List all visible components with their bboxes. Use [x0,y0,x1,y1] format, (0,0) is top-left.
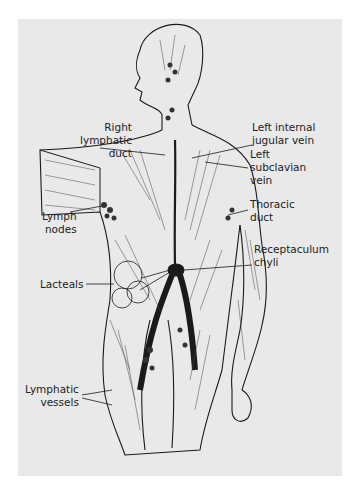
label-thoracic-duct: Thoracic duct [250,198,295,224]
label-lymph-nodes: Lymph nodes [42,210,77,236]
thoracic-duct [175,140,176,265]
lymph-node-clusters [101,63,235,371]
receptaculum-chyli [168,264,184,276]
left-arm-outline [232,225,244,390]
leg-outline [142,320,174,450]
label-leader-lines [70,145,252,405]
iliac-vessel-left [140,275,172,390]
label-right-lymphatic-duct: Right lymphatic duct [80,121,132,160]
iliac-vessel-right [180,275,195,370]
label-lacteals: Lacteals [40,278,83,291]
lymphatic-vessel-network [45,35,260,430]
head-outline [135,24,203,130]
label-receptaculum-chyli: Receptaculum chyli [254,243,329,269]
left-hand-outline [232,390,251,421]
label-left-subclavian-vein: Left subclavian vein [250,148,306,187]
label-lymphatic-vessels: Lymphatic vessels [25,383,79,409]
label-left-internal-jugular-vein: Left internal jugular vein [252,121,315,147]
